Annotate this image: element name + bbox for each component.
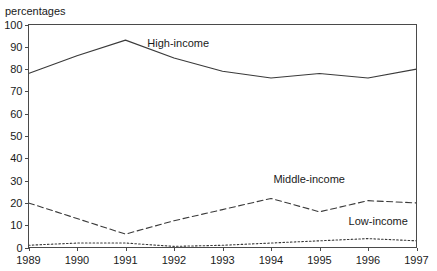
y-axis-tick-label: 80 <box>10 63 22 75</box>
y-axis-tick-label: 100 <box>4 19 22 31</box>
y-axis-tick-label: 30 <box>10 175 22 187</box>
y-axis-tick-label: 20 <box>10 197 22 209</box>
x-axis-tick-label: 1995 <box>307 254 331 266</box>
y-axis-tick-group: 0102030405060708090100 <box>4 19 28 254</box>
y-axis-tick-label: 90 <box>10 41 22 53</box>
x-axis-tick-label: 1997 <box>404 254 428 266</box>
x-axis-tick-label: 1990 <box>65 254 89 266</box>
y-axis-tick-label: 70 <box>10 85 22 97</box>
series-line-low-income <box>29 239 417 247</box>
x-axis-tick-label: 1991 <box>113 254 137 266</box>
y-axis-tick-label: 10 <box>10 219 22 231</box>
x-axis-tick-label: 1989 <box>16 254 40 266</box>
x-axis-tick-label: 1992 <box>162 254 186 266</box>
line-chart-plot: 0102030405060708090100 19891990199119921… <box>0 0 437 271</box>
x-axis-tick-label: 1994 <box>259 254 283 266</box>
y-axis-tick-label: 0 <box>16 242 22 254</box>
x-axis-tick-label: 1993 <box>210 254 234 266</box>
y-axis-tick-label: 60 <box>10 108 22 120</box>
chart-container: percentages 0102030405060708090100 19891… <box>0 0 437 271</box>
series-label-high-income: High-income <box>147 37 209 49</box>
x-axis-tick-label: 1996 <box>356 254 380 266</box>
series-line-high-income <box>29 40 417 78</box>
y-axis-tick-label: 40 <box>10 152 22 164</box>
series-label-group: High-incomeMiddle-incomeLow-income <box>147 37 408 227</box>
x-axis-tick-group: 198919901991199219931994199519961997 <box>16 248 428 266</box>
series-label-low-income: Low-income <box>349 215 408 227</box>
y-axis-tick-label: 50 <box>10 130 22 142</box>
series-label-middle-income: Middle-income <box>273 173 345 185</box>
plot-frame <box>29 25 417 248</box>
